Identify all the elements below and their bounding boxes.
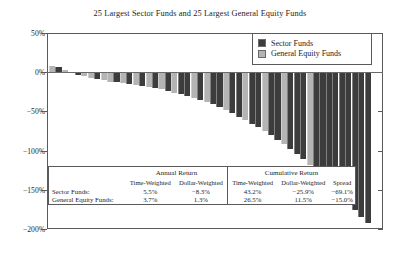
- bar-sector: [139, 72, 145, 86]
- bar-sector: [94, 72, 100, 79]
- y-axis-tick-mark-right: [378, 190, 383, 191]
- group-header-cumulative: Cumulative Return: [228, 167, 355, 178]
- colhead-cum-time: Time-Weighted: [228, 178, 277, 188]
- bar-sector: [358, 72, 364, 217]
- cell-sector-annual-time: 5.5%: [126, 188, 175, 196]
- y-axis-tick-label: 50%: [5, 29, 45, 38]
- bar-sector: [287, 72, 293, 149]
- bar-general: [146, 72, 152, 87]
- cell-sector-cum-spread: −69.1%: [329, 188, 355, 196]
- bar-general: [120, 72, 126, 83]
- bar-sector: [210, 72, 216, 104]
- bar-general: [158, 72, 164, 89]
- bar-sector: [313, 72, 319, 170]
- colhead-cum-dollar: Dollar-Weighted: [277, 178, 329, 188]
- chart-title: 25 Largest Sector Funds and 25 Largest G…: [0, 9, 400, 18]
- table-group-header-row: Annual Return Cumulative Return: [49, 167, 355, 178]
- colhead-annual-time: Time-Weighted: [126, 178, 175, 188]
- bar-general: [191, 72, 197, 98]
- bar-sector: [365, 72, 371, 223]
- bar-general: [204, 72, 210, 102]
- bar-sector: [274, 72, 280, 139]
- row-label-general: General Equity Funds:: [49, 196, 126, 204]
- cell-general-cum-time: 26.5%: [228, 196, 277, 204]
- zero-baseline: [47, 72, 383, 73]
- bar-sector: [319, 72, 325, 176]
- bar-general: [307, 72, 313, 165]
- table-column-header-row: Time-Weighted Dollar-Weighted Time-Weigh…: [49, 178, 355, 188]
- bar-sector: [152, 72, 158, 88]
- bar-sector: [255, 72, 261, 127]
- bar-sector: [184, 72, 190, 96]
- cell-general-annual-dollar: 1.3%: [175, 196, 228, 204]
- y-axis-tick-mark: [41, 229, 47, 230]
- y-axis-tick-label: −50%: [5, 107, 45, 116]
- bar-general: [242, 72, 248, 120]
- bar-general: [107, 72, 113, 81]
- row-label-sector: Sector Funds:: [49, 188, 126, 196]
- cell-sector-cum-time: 43.2%: [228, 188, 277, 196]
- legend-label-general: General Equity Funds: [271, 49, 341, 58]
- bar-sector: [229, 72, 235, 113]
- legend-swatch-sector-icon: [258, 39, 266, 47]
- y-axis-tick-mark-right: [378, 111, 383, 112]
- legend-label-sector: Sector Funds: [271, 39, 313, 48]
- bar-general: [171, 72, 177, 92]
- y-axis-tick-mark-right: [378, 151, 383, 152]
- bar-sector: [249, 72, 255, 124]
- bar-sector: [294, 72, 300, 154]
- bar-general: [101, 72, 107, 80]
- bar-general: [223, 72, 229, 110]
- table-row: General Equity Funds: 3.7% 1.3% 26.5% 11…: [49, 196, 355, 204]
- bar-sector: [165, 72, 171, 91]
- bar-sector: [268, 72, 274, 135]
- bar-sector: [216, 72, 222, 106]
- legend-item-general: General Equity Funds: [258, 49, 366, 58]
- y-axis-tick-mark-right: [378, 33, 383, 34]
- cell-general-cum-dollar: 11.5%: [277, 196, 329, 204]
- y-axis: 50%0%−50%−100%−150%−200%: [0, 0, 45, 256]
- bar-sector: [197, 72, 203, 100]
- bar-sector: [178, 72, 184, 94]
- bar-general: [262, 72, 268, 131]
- bar-general: [281, 72, 287, 144]
- y-axis-tick-mark-right: [378, 229, 383, 230]
- y-axis-tick-label: 0%: [5, 68, 45, 77]
- bar-sector: [300, 72, 306, 159]
- cell-sector-cum-dollar: −25.9%: [277, 188, 329, 196]
- table-row: Sector Funds: 5.5% −8.3% 43.2% −25.9% −6…: [49, 188, 355, 196]
- chart-legend: Sector Funds General Equity Funds: [252, 33, 372, 65]
- y-axis-tick-label: −150%: [5, 185, 45, 194]
- bar-sector: [113, 72, 119, 82]
- bar-general: [133, 72, 139, 85]
- group-header-annual: Annual Return: [126, 167, 228, 178]
- colhead-cum-spread: Spread: [329, 178, 355, 188]
- cell-general-annual-time: 3.7%: [126, 196, 175, 204]
- summary-table: Annual Return Cumulative Return Time-Wei…: [48, 166, 356, 205]
- chart-container: 25 Largest Sector Funds and 25 Largest G…: [0, 0, 400, 256]
- bar-sector: [126, 72, 132, 84]
- cell-sector-annual-dollar: −8.3%: [175, 188, 228, 196]
- y-axis-tick-label: −200%: [5, 225, 45, 234]
- bar-sector: [236, 72, 242, 117]
- y-axis-tick-label: −100%: [5, 146, 45, 155]
- cell-general-cum-spread: −15.0%: [329, 196, 355, 204]
- legend-item-sector: Sector Funds: [258, 39, 366, 48]
- legend-swatch-general-icon: [258, 50, 266, 58]
- colhead-annual-dollar: Dollar-Weighted: [175, 178, 228, 188]
- summary-table-grid: Annual Return Cumulative Return Time-Wei…: [49, 167, 355, 204]
